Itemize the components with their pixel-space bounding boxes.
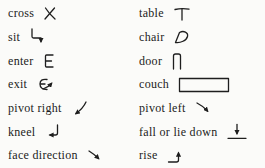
- legend-row-door: door: [139, 49, 263, 73]
- x-mark-icon: [43, 6, 57, 21]
- legend-row-rise: rise: [139, 144, 263, 168]
- legend-label: enter: [8, 54, 33, 69]
- legend-row-exit: exit: [8, 73, 134, 97]
- arrow-down-onto-line-icon: [226, 123, 248, 141]
- legend-label: table: [139, 6, 164, 21]
- legend-label: pivot right: [8, 101, 62, 116]
- line-turn-up-arrow-icon: [167, 147, 184, 164]
- letter-e-icon: [42, 53, 55, 69]
- legend-row-chair: chair: [139, 26, 263, 50]
- letter-e-with-arrow-icon: [36, 77, 57, 93]
- legend-label: door: [139, 54, 162, 69]
- legend-label: chair: [139, 30, 164, 45]
- rounded-seat-outline-icon: [173, 30, 190, 45]
- legend-row-enter: enter: [8, 49, 134, 73]
- rectangle-outline-icon: [178, 76, 231, 94]
- legend-label: pivot left: [139, 101, 186, 116]
- legend-label: sit: [8, 30, 20, 45]
- legend-label: rise: [139, 148, 158, 163]
- t-shape-icon: [173, 6, 191, 22]
- arrow-right-then-down-icon: [29, 28, 46, 47]
- legend-column-right: table chair door: [139, 2, 263, 168]
- legend-label: face direction: [8, 148, 78, 163]
- curved-arrow-down-left-icon: [71, 100, 89, 118]
- arrow-down-right-icon: [87, 149, 103, 163]
- curved-arrow-down-right-icon: [195, 101, 212, 116]
- legend-label: cross: [8, 6, 34, 21]
- legend-row-pivot-left: pivot left: [139, 97, 263, 121]
- legend-column-left: cross sit enter: [8, 2, 134, 168]
- legend-row-pivot-right: pivot right: [8, 97, 134, 121]
- legend-label: fall or lie down: [139, 125, 217, 140]
- legend-label: kneel: [8, 125, 36, 140]
- legend-row-kneel: kneel: [8, 120, 134, 144]
- legend-label: exit: [8, 77, 27, 92]
- pi-shape-icon: [171, 52, 183, 70]
- symbol-legend-figure: cross sit enter: [0, 0, 265, 168]
- return-arrow-left-icon: [45, 124, 61, 140]
- legend-row-couch: couch: [139, 73, 263, 97]
- legend-row-face-direction: face direction: [8, 144, 134, 168]
- legend-row-table: table: [139, 2, 263, 26]
- legend-row-cross: cross: [8, 2, 134, 26]
- legend-row-sit: sit: [8, 26, 134, 50]
- legend-row-fall-or-lie-down: fall or lie down: [139, 120, 263, 144]
- legend-label: couch: [139, 77, 169, 92]
